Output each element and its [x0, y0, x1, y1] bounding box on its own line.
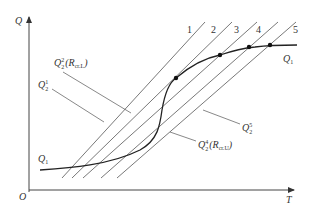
leader-q2-2	[63, 72, 131, 113]
line-2	[72, 22, 232, 178]
y-axis-label: Q	[15, 15, 23, 26]
x-axis-label: T	[286, 194, 293, 205]
origin-label: O	[19, 191, 26, 202]
annotation-q2-5: Q52	[242, 122, 252, 135]
line-4	[101, 22, 278, 178]
line-3-label: 3	[234, 24, 239, 35]
intersection-point	[174, 76, 178, 80]
heat-removal-lines	[62, 22, 296, 178]
leader-q2-5	[203, 110, 240, 124]
intersection-point	[218, 53, 222, 57]
line-1	[62, 22, 205, 178]
line-5-label: 5	[293, 24, 298, 35]
leader-q2-4	[170, 132, 196, 141]
line-2-label: 2	[211, 24, 216, 35]
leader-q2-1	[52, 89, 104, 122]
curve-label-right: Q1	[283, 53, 293, 65]
annotation-q2-2: Q22(Rcr.L)	[54, 57, 88, 70]
heat-balance-diagram: Q T O 1 2 3 4 5 Q1 Q1 Q22(Rcr.L) Q12 Q42…	[0, 0, 317, 215]
intersection-point	[268, 43, 272, 47]
line-1-label: 1	[187, 24, 192, 35]
annotation-q2-1: Q12	[38, 79, 48, 92]
curve-label-left: Q1	[38, 153, 48, 165]
intersection-point	[247, 45, 251, 49]
annotation-q2-4: Q42(Rcr.U)	[198, 139, 233, 152]
line-4-label: 4	[256, 24, 261, 35]
